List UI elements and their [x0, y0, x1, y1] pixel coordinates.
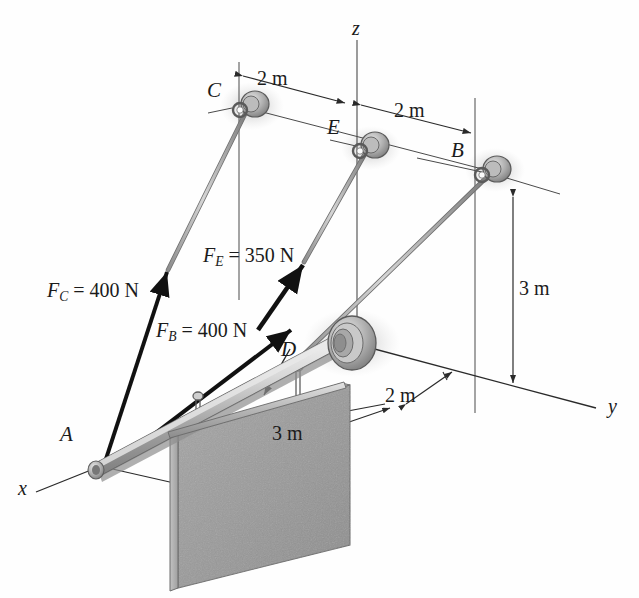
point-c-label: C: [207, 80, 221, 101]
force-c-symbol: F: [47, 279, 59, 301]
dimension-2m-left-label: 2 m: [257, 68, 288, 88]
force-b-subscript: B: [168, 329, 176, 344]
force-b-value: = 400 N: [177, 319, 248, 341]
force-e-label: FE = 350 N: [203, 245, 294, 268]
point-e-label: E: [327, 117, 340, 138]
force-c-subscript: C: [59, 289, 68, 304]
dimension-2m-plate-label: 2 m: [385, 385, 416, 405]
figure-canvas: z y x C E B D A 2 m 2 m 3 m 2 m 3 m FC =…: [0, 0, 639, 598]
force-e-symbol: F: [203, 244, 215, 266]
force-c-label: FC = 400 N: [47, 280, 139, 303]
x-axis: [36, 468, 96, 492]
point-d-label: D: [281, 339, 296, 360]
z-axis-label: z: [352, 18, 360, 38]
dimension-2m-right-label: 2 m: [394, 100, 425, 120]
bearing-d: [328, 316, 376, 370]
force-c-value: = 400 N: [68, 279, 139, 301]
dimension-3m-plate-label: 3 m: [272, 423, 303, 443]
dimension-3m-right-label: 3 m: [519, 278, 550, 298]
force-e-subscript: E: [215, 254, 223, 269]
force-b-symbol: F: [156, 319, 168, 341]
force-b-label: FB = 400 N: [156, 320, 247, 343]
point-a-label: A: [60, 424, 73, 445]
force-vector-e: [258, 265, 303, 330]
point-b-label: B: [451, 140, 464, 161]
y-axis-label: y: [608, 396, 617, 416]
x-axis-label: x: [18, 478, 27, 498]
force-e-value: = 350 N: [224, 244, 295, 266]
